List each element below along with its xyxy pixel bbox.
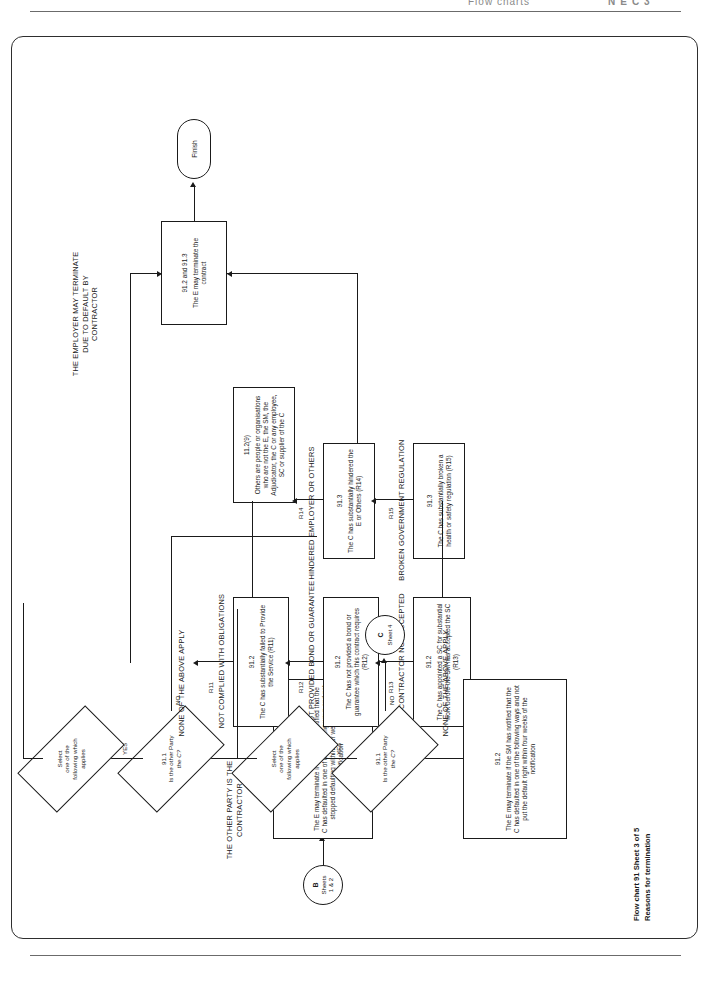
decision-4-line1: Select (270, 738, 278, 780)
edge-r11-out (197, 661, 233, 662)
edge-select2-to-r15 (442, 501, 443, 597)
box-r11-body: The C has substantially failed to Provid… (259, 602, 275, 722)
box-start-912-ref: 91.2 (494, 753, 502, 765)
arrow-r15-up (371, 498, 376, 504)
decision-1-ref: 91.1 (160, 735, 168, 782)
tag-r12: R12 (297, 682, 304, 693)
header-rule (30, 11, 681, 12)
decision-2-line1: Select (56, 738, 64, 780)
edge-r15-up (375, 499, 413, 500)
connector-c-label: C (377, 632, 385, 637)
edge-dec3-no (385, 661, 386, 711)
box-start-912[interactable]: 91.2 The E may terminate if the SM has n… (463, 679, 567, 839)
header-left-text: Flow charts (468, 0, 530, 7)
decision-1-line2: the C? (175, 735, 183, 782)
rail-select1-top (23, 604, 24, 760)
box-r15-ref: 91.3 (426, 495, 434, 507)
edge-r12-up (289, 661, 323, 662)
decision-2-line3: following which (71, 738, 79, 780)
box-r11-ref: 91.2 (248, 656, 256, 668)
rail-select2-top (237, 610, 238, 760)
decision-is-other-party-contractor-1[interactable]: 91.1 Is the other Party the C? (143, 711, 199, 807)
connector-b[interactable]: B Sheets 1 & 2 (303, 865, 343, 905)
annotation-none-apply-2: NONE OF THE ABOVE APPLY (441, 623, 451, 743)
edge-r14-up (295, 499, 323, 500)
box-r14-ref: 91.3 (336, 495, 344, 507)
arrow-r12-up (285, 660, 290, 666)
annotation-employer-may-terminate: THE EMPLOYER MAY TERMINATE DUE TO DEFAUL… (71, 249, 100, 379)
decision-3-ref: 91.1 (374, 735, 382, 782)
connector-c[interactable]: C Sheet 4 (365, 615, 405, 655)
box-terminate-body: The E may terminate the contract (192, 226, 208, 320)
decision-1-line1: Is the other Party (167, 735, 175, 782)
tag-r14: R14 (297, 508, 304, 519)
tag-r11: R11 (207, 682, 214, 693)
decision-3-line2: the C? (389, 735, 397, 782)
tag-r13: R13 (387, 682, 394, 693)
decision-4-line2: one of the (277, 738, 285, 780)
arrow-terminate-to-finish (190, 182, 196, 187)
arrow-r11-out (193, 660, 198, 666)
edge-select2-to-r14 (252, 501, 253, 597)
box-r14[interactable]: 91.3 The C has substantially hindered th… (323, 443, 375, 559)
note-body: Others are people or organisations who a… (254, 392, 286, 498)
note-11-2-9: 11.2(9) Others are people or organisatio… (233, 387, 295, 503)
chart-caption: Flow chart 91 Sheet 3 of 5 Reasons for t… (631, 828, 653, 921)
connector-b-label: B (312, 882, 320, 887)
group-heading-r15: BROKEN GOVERNMENT REGULATION (397, 437, 407, 583)
decision-is-other-party-contractor-2[interactable]: 91.1 Is the other Party the C? (357, 711, 413, 807)
tag-r15: R15 (387, 508, 394, 519)
box-r14-body: The C has substantially hindered the E o… (347, 448, 363, 554)
box-terminate[interactable]: 91.2 and 91.3 The E may terminate the co… (161, 221, 227, 325)
arrow-main-into-terminate (157, 271, 162, 277)
rail-main-top (130, 273, 131, 663)
edge-dec1-no (171, 536, 172, 711)
group-heading-r14: HINDERED EMPLOYER OR OTHERS (307, 443, 317, 583)
arrow-r13-up (375, 660, 380, 666)
rail-select1-stub (23, 758, 43, 759)
rail-lower-into-terminate (227, 273, 357, 274)
box-r11[interactable]: 91.2 The C has substantially failed to P… (233, 597, 289, 727)
arrow-r14-up (292, 498, 297, 504)
edge-terminate-to-finish (194, 185, 195, 221)
decision-select-one-2[interactable]: Select one of the following which applie… (257, 711, 313, 807)
finish-label: Finish (191, 140, 198, 158)
edge-r13-up (379, 661, 413, 662)
box-r13-ref: 91.2 (425, 656, 433, 668)
note-ref: 11.2(9) (243, 435, 251, 455)
edge-b-to-start913 (323, 839, 324, 865)
decision-4-line3: following which (285, 738, 293, 780)
decision-4-line4: applies (293, 738, 301, 780)
box-terminate-ref: 91.2 and 91.3 (181, 253, 189, 292)
decision-3-line1: Is the other Party (381, 735, 389, 782)
decision-select-one-1[interactable]: Select one of the following which applie… (43, 711, 99, 807)
edge-dec1-no-down (171, 536, 317, 537)
box-r12-body: The C has not provided a bond or guarant… (345, 602, 369, 722)
flowchart-canvas: B Sheets 1 & 2 91.3 The E may terminate … (11, 34, 700, 939)
caption-line-1: Flow chart 91 Sheet 3 of 5 (631, 828, 642, 921)
flowchart-canvas-wrap: B Sheets 1 & 2 91.3 The E may terminate … (11, 34, 700, 939)
box-r15[interactable]: 91.3 The C has substantially broken a he… (413, 443, 465, 559)
header-right-text: NEC3 (608, 0, 655, 7)
box-r15-body: The C has substantially broken a health … (437, 448, 453, 554)
box-start-912-body: The E may terminate if the SM has notifi… (505, 684, 537, 834)
footer-rule (30, 955, 681, 956)
terminator-finish[interactable]: Finish (177, 119, 211, 179)
connector-c-sub1: Sheet 4 (386, 625, 393, 646)
connector-b-sub1: Sheets (320, 876, 327, 895)
arrow-lower-into-terminate (227, 271, 232, 277)
caption-line-2: Reasons for termination (642, 828, 653, 921)
decision-3-no-label: NO (388, 696, 395, 705)
rail-select2-stub (237, 758, 257, 759)
box-r12[interactable]: 91.2 The C has not provided a bond or gu… (323, 597, 379, 727)
group-label-not-complied: NONE OF THE ABOVE APPLY (177, 623, 187, 743)
page-root: Flow charts NEC3 B Sheets 1 & 2 91.3 The… (0, 0, 711, 983)
box-r12-ref: 91.2 (334, 656, 342, 668)
rail-lower-collect (357, 273, 358, 443)
connector-b-sub2: 1 & 2 (327, 878, 334, 892)
decision-2-line2: one of the (63, 738, 71, 780)
decision-2-line4: applies (79, 738, 87, 780)
